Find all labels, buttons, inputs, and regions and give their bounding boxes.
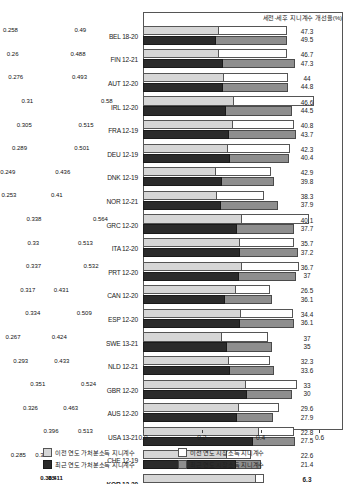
bar-value-label-market: 0.441	[56, 415, 73, 421]
category-label-wrap: NOR 12-21	[76, 189, 138, 213]
category-label: NOR 12-21	[76, 197, 138, 204]
bar-value-label-market: 0.513	[77, 428, 94, 434]
chart-row: DNK 12-190.2490.4360.2680.44542.939.8	[0, 166, 346, 190]
bar-value-label-disposable: 0.355	[30, 391, 47, 397]
bar-value-label-disposable: 0.296	[13, 155, 30, 161]
chart-row: ESP 12-200.3340.5090.3290.51534.436.1	[0, 307, 346, 331]
bar-recent-disposable-income	[143, 106, 226, 115]
bar-value-label-disposable: 0.28	[12, 297, 26, 303]
bar-value-label-disposable: 0.331	[23, 250, 40, 256]
bar-value-label-market: 0.527	[81, 250, 98, 256]
bar-recent-disposable-income	[143, 59, 223, 68]
improvement-rate-previous: 47.3	[284, 28, 330, 35]
bar-value-label-disposable: 0.327	[22, 273, 39, 279]
category-label-wrap: AUS 12-20	[76, 402, 138, 426]
improvement-rate-recent: 36.1	[284, 320, 330, 327]
bar-value-label-market: 0.431	[53, 287, 70, 293]
legend-item-recent-market[interactable]: 최근 연도 시장소득 지니계수	[178, 460, 303, 469]
bar-value-label-market: 0.424	[51, 334, 68, 340]
bar-prev-disposable-income	[143, 309, 241, 318]
bar-recent-disposable-income	[143, 154, 230, 163]
bar-value-label-market: 0.519	[79, 132, 96, 138]
chart-rows: BEL 18-200.2580.490.2480.49147.349.5FIN …	[0, 24, 346, 484]
improvement-rate-recent: 33.6	[284, 367, 330, 374]
bar-prev-disposable-income	[143, 356, 229, 365]
chart-row: IRL 12-200.310.580.2820.50846.644.5	[0, 95, 346, 119]
bar-value-label-disposable: 0.32	[23, 226, 37, 232]
improvement-rate-cell: 35.737.2	[284, 240, 330, 256]
improvement-rate-recent: 47.3	[284, 60, 330, 67]
bar-value-label-disposable: 0.326	[22, 405, 39, 411]
bar-prev-disposable-income	[143, 73, 224, 82]
improvement-rate-recent: 36.1	[284, 296, 330, 303]
bar-value-label-market: 0.532	[82, 263, 99, 269]
bar-value-label-disposable: 0.375	[36, 438, 53, 444]
bar-value-label-market: 0.436	[54, 169, 71, 175]
bar-value-label-disposable: 0.31	[21, 98, 35, 104]
bar-value-label-market: 0.513	[77, 240, 94, 246]
bar-value-label-disposable: 0.253	[0, 192, 17, 198]
improvement-rate-cell: 29.627.9	[284, 406, 330, 422]
category-label-wrap: SWE 13-21	[76, 331, 138, 355]
bar-value-label-market: 0.515	[77, 122, 94, 128]
axis-tick-label: 0.4	[256, 434, 265, 441]
improvement-rate-cell: 3735	[284, 335, 330, 351]
bar-value-label-market: 0.514	[77, 226, 94, 232]
improvement-rate-header: 세전-세후 지니계수 개선율(%)	[263, 13, 342, 22]
bar-recent-disposable-income	[143, 366, 230, 375]
bar-value-label-market: 0.488	[70, 51, 87, 57]
bar-value-label-market: 0.519	[79, 273, 96, 279]
bar-value-label-market: 0.564	[92, 216, 109, 222]
improvement-rate-recent: 37	[284, 272, 330, 279]
category-label: SWE 13-21	[76, 339, 138, 346]
improvement-rate-previous: 33	[284, 382, 330, 389]
improvement-rate-previous: 42.9	[284, 170, 330, 177]
axis-tick	[261, 430, 262, 433]
bar-value-label-market: 0.411	[47, 475, 64, 481]
bar-value-label-disposable: 0.268	[5, 179, 22, 185]
bar-value-label-disposable: 0.292	[12, 132, 29, 138]
chart-row: SWE 13-210.2670.4240.2860.443735	[0, 331, 346, 355]
bar-prev-disposable-income	[143, 262, 242, 271]
bar-prev-disposable-income	[143, 214, 242, 223]
bar-value-label-market: 0.493	[71, 74, 88, 80]
axis-tick-label: 0.0	[138, 434, 147, 441]
improvement-rate-cell: 46.747.3	[284, 52, 330, 68]
chart-row: FIN 12-210.260.4880.2730.51846.747.3	[0, 48, 346, 72]
chart-row: PRT 12-200.3370.5320.3270.51936.737	[0, 260, 346, 284]
improvement-rate-cell: 42.340.4	[284, 146, 330, 162]
improvement-rate-cell: 46.644.5	[284, 99, 330, 115]
chart-row: GBR 12-200.3510.5240.3550.5073330	[0, 378, 346, 402]
bar-recent-disposable-income	[143, 390, 247, 399]
legend-item-prev-market[interactable]: 이전 연도 시장소득 지니계수	[178, 448, 303, 457]
bar-value-label-disposable: 0.338	[25, 216, 42, 222]
improvement-rate-recent: 27.9	[284, 414, 330, 421]
category-label: AUS 12-20	[76, 410, 138, 417]
bar-prev-disposable-income	[143, 238, 240, 247]
improvement-rate-previous: 36.7	[284, 264, 330, 271]
chart-row: CAN 12-200.3170.4310.280.43826.536.1	[0, 284, 346, 308]
improvement-rate-cell: 26.536.1	[284, 288, 330, 304]
bar-value-label-market: 0.463	[62, 405, 79, 411]
bar-prev-disposable-income	[143, 167, 216, 176]
improvement-rate-cell: 32.333.6	[284, 358, 330, 374]
bar-prev-disposable-income	[143, 474, 256, 483]
legend-swatch-icon	[43, 448, 52, 457]
legend-label: 이전 연도 가처분소득 지니계수	[55, 448, 135, 457]
category-label-wrap: KOR 12-20	[76, 472, 138, 484]
axis-tick	[319, 430, 320, 433]
bar-value-label-disposable: 0.329	[23, 320, 40, 326]
improvement-rate-cell: 6.318.3	[284, 476, 330, 484]
bar-value-label-disposable: 0.297	[13, 368, 30, 374]
legend-item-prev-disposable[interactable]: 이전 연도 가처분소득 지니계수	[43, 448, 168, 457]
bar-value-label-market: 0.58	[100, 98, 114, 104]
improvement-rate-cell: 40.137.7	[284, 217, 330, 233]
improvement-rate-previous: 40.1	[284, 217, 330, 224]
bar-prev-disposable-income	[143, 49, 219, 58]
improvement-rate-cell: 34.436.1	[284, 311, 330, 327]
legend-item-recent-disposable[interactable]: 최근 연도 가처분소득 지니계수	[43, 460, 168, 469]
improvement-rate-previous: 6.3	[284, 476, 330, 483]
improvement-rate-cell: 40.843.7	[284, 122, 330, 138]
bar-value-label-market: 0.447	[57, 368, 74, 374]
bar-value-label-market: 0.493	[71, 84, 88, 90]
